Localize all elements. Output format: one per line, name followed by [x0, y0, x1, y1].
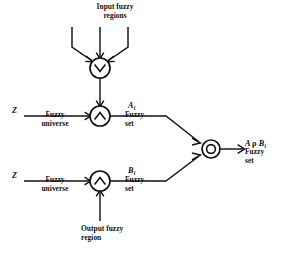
and-node-top	[90, 106, 110, 126]
fuzzy-universe-label-bottom: Fuzzy universe	[28, 176, 82, 193]
and-node-bottom	[90, 171, 110, 191]
diagram-canvas	[0, 0, 286, 258]
input-stem-right	[107, 27, 129, 62]
input-fuzzy-regions-label: Input fuzzy regions	[78, 3, 152, 20]
input-stem-left	[72, 27, 94, 62]
fuzzy-inference-diagram: Input fuzzy regions Z Fuzzy universe Ai …	[0, 0, 286, 258]
signal-b-label: Bi	[128, 166, 135, 175]
fuzzy-set-label-result: Fuzzy set	[245, 148, 285, 165]
signal-a-label: Ai	[128, 101, 135, 110]
universe-symbol-bottom: Z	[12, 171, 17, 180]
fuzzy-universe-label-top: Fuzzy universe	[28, 111, 82, 128]
wire-output-region	[96, 190, 104, 221]
input-stem-center	[96, 27, 104, 59]
wire-result-output	[220, 145, 245, 154]
fuzzy-set-label-bottom: Fuzzy set	[125, 176, 161, 193]
output-fuzzy-region-label: Output fuzzy region	[81, 225, 143, 242]
wire-or-to-and-top	[96, 78, 104, 107]
or-node	[90, 58, 110, 78]
fuzzy-set-label-top: Fuzzy set	[125, 111, 161, 128]
signal-b-symbol: B	[128, 166, 133, 175]
signal-a-symbol: A	[128, 101, 133, 110]
universe-symbol-top: Z	[12, 106, 17, 115]
compose-node	[202, 140, 220, 158]
